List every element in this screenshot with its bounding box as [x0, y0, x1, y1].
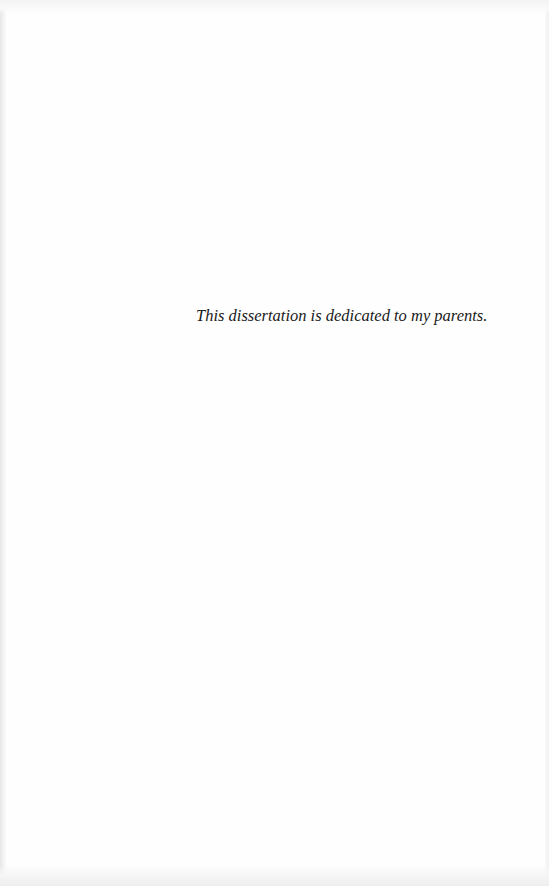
scan-edge-top [0, 0, 549, 14]
document-page: This dissertation is dedicated to my par… [0, 0, 549, 886]
scan-edge-left [0, 0, 6, 886]
scan-edge-bottom [0, 864, 549, 886]
scan-edge-right [545, 0, 549, 886]
dedication-text: This dissertation is dedicated to my par… [196, 306, 487, 326]
